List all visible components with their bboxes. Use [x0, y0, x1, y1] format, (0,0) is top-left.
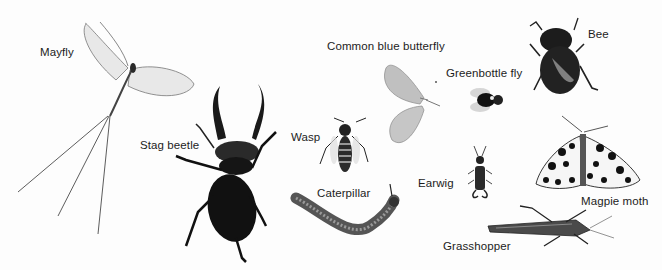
label-common-blue-butterfly: Common blue butterfly — [327, 40, 445, 52]
label-grasshopper: Grasshopper — [443, 240, 511, 252]
insect-illustration: Mayfly Stag beetle Wasp Caterpillar Comm… — [0, 0, 662, 270]
label-wasp: Wasp — [291, 131, 320, 143]
label-magpie-moth: Magpie moth — [581, 195, 649, 207]
earwig-drawing — [468, 146, 492, 198]
butterfly-drawing — [384, 65, 440, 142]
label-caterpillar: Caterpillar — [317, 187, 371, 199]
label-mayfly: Mayfly — [40, 46, 74, 58]
label-stag-beetle: Stag beetle — [140, 139, 199, 151]
magpie-moth-drawing — [536, 116, 640, 189]
label-greenbottle-fly: Greenbottle fly — [446, 67, 522, 79]
label-bee: Bee — [588, 28, 609, 40]
wasp-drawing — [320, 118, 368, 172]
stag-beetle-drawing — [176, 84, 276, 262]
label-earwig: Earwig — [418, 177, 454, 189]
greenbottle-fly-drawing — [470, 88, 503, 112]
